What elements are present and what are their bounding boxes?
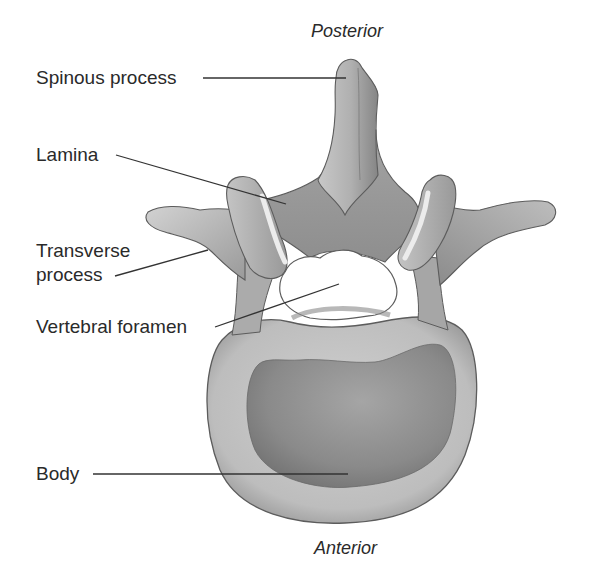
transverse-process-label-line2: process <box>36 264 103 286</box>
vertebra-diagram: Posterior Anterior Spinous process Lamin… <box>0 0 591 580</box>
spinous-process-label: Spinous process <box>36 67 176 89</box>
posterior-label: Posterior <box>311 20 383 42</box>
left-transverse-process <box>146 206 245 280</box>
vertebral-foramen-label: Vertebral foramen <box>36 316 187 338</box>
lamina-label: Lamina <box>36 144 98 166</box>
leader-lamina <box>116 155 286 204</box>
vertebral-body-inner <box>247 344 456 487</box>
anterior-label: Anterior <box>314 537 377 559</box>
transverse-process-label-line1: Transverse <box>36 240 130 262</box>
body-label: Body <box>36 463 79 485</box>
